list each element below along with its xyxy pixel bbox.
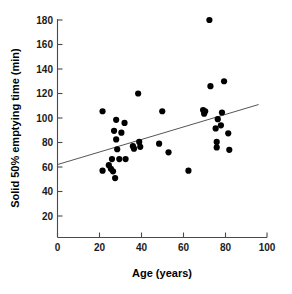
data-point [131, 146, 137, 152]
y-axis-ticks [58, 20, 63, 216]
data-point [213, 125, 219, 131]
data-point [109, 156, 115, 162]
chart-canvas: 180 160 140 120 100 80 60 40 20 0 20 40 … [0, 0, 292, 294]
y-tick-label-60: 60 [42, 162, 54, 173]
data-point [225, 130, 231, 136]
y-tick-label-20: 20 [42, 211, 54, 222]
data-point [226, 147, 232, 153]
data-point [118, 130, 124, 136]
scatter-plot-figure: 180 160 140 120 100 80 60 40 20 0 20 40 … [0, 0, 292, 294]
data-point [122, 156, 128, 162]
data-point [112, 175, 118, 181]
x-tick-label-40: 40 [136, 242, 148, 253]
data-point [113, 117, 119, 123]
y-tick-label-100: 100 [36, 113, 53, 124]
x-tick-label-20: 20 [94, 242, 106, 253]
data-point [185, 168, 191, 174]
x-tick-label-60: 60 [178, 242, 190, 253]
y-tick-label-80: 80 [42, 137, 54, 148]
x-axis-tick-labels: 0 20 40 60 80 100 [55, 242, 276, 253]
data-point [207, 83, 213, 89]
x-tick-label-100: 100 [259, 242, 276, 253]
data-points-group [99, 17, 232, 181]
data-point [135, 90, 141, 96]
data-point [214, 139, 220, 145]
data-point [121, 120, 127, 126]
y-tick-label-160: 160 [36, 39, 53, 50]
y-tick-label-40: 40 [42, 186, 54, 197]
data-point [114, 146, 120, 152]
data-point [156, 141, 162, 147]
data-point [165, 149, 171, 155]
x-axis-title: Age (years) [132, 267, 192, 279]
y-tick-label-180: 180 [36, 15, 53, 26]
data-point [206, 17, 212, 23]
data-point [99, 108, 105, 114]
y-axis-title: Solid 50% emptying time (min) [9, 48, 21, 208]
data-point [113, 136, 119, 142]
data-point [116, 156, 122, 162]
x-tick-label-80: 80 [220, 242, 232, 253]
x-tick-label-0: 0 [55, 242, 61, 253]
data-point [110, 168, 116, 174]
y-tick-label-120: 120 [36, 88, 53, 99]
data-point [214, 144, 220, 150]
data-point [159, 108, 165, 114]
data-point [111, 128, 117, 134]
data-point [221, 78, 227, 84]
y-axis-tick-labels: 180 160 140 120 100 80 60 40 20 [36, 15, 53, 222]
data-point [218, 122, 224, 128]
data-point [99, 168, 105, 174]
data-point [215, 116, 221, 122]
data-point [219, 109, 225, 115]
data-point [202, 108, 208, 114]
data-point [137, 144, 143, 150]
x-axis-ticks [58, 233, 268, 238]
y-tick-label-140: 140 [36, 64, 53, 75]
